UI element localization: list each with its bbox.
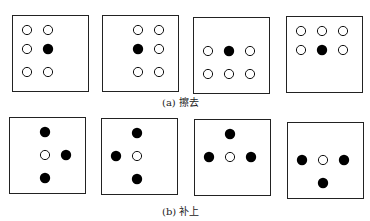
open-pixel-dot: [22, 25, 31, 34]
filled-pixel-dot: [132, 174, 142, 184]
panel-b-box-3: [195, 120, 271, 196]
open-pixel-dot: [224, 69, 233, 78]
filled-pixel-dot: [246, 152, 256, 162]
open-pixel-dot: [296, 26, 305, 35]
filled-pixel-dot: [111, 151, 121, 161]
panel-a-box-1: [13, 16, 89, 92]
panel-b-box-4: [288, 123, 364, 199]
open-pixel-dot: [22, 44, 31, 53]
open-pixel-dot: [132, 151, 141, 160]
open-pixel-dot: [154, 25, 163, 34]
filled-pixel-dot: [318, 178, 328, 188]
panel-b-box-2: [102, 119, 178, 195]
filled-pixel-dot: [133, 44, 143, 54]
panel-a-box-3: [194, 18, 270, 94]
filled-pixel-dot: [40, 127, 50, 137]
open-pixel-dot: [133, 25, 142, 34]
filled-pixel-dot: [297, 155, 307, 165]
open-pixel-dot: [245, 69, 254, 78]
filled-pixel-dot: [204, 152, 214, 162]
open-pixel-dot: [338, 45, 347, 54]
filled-pixel-dot: [224, 46, 234, 56]
panel-a-box-4: [287, 17, 363, 93]
open-pixel-dot: [40, 150, 49, 159]
filled-pixel-dot: [225, 129, 235, 139]
caption-erase: (a) 擦去: [162, 94, 199, 109]
open-pixel-dot: [203, 46, 212, 55]
open-pixel-dot: [338, 26, 347, 35]
panel-a-box-2: [103, 16, 179, 92]
open-pixel-dot: [43, 25, 52, 34]
open-pixel-dot: [245, 46, 254, 55]
open-pixel-dot: [154, 44, 163, 53]
morphology-diagram: [0, 0, 370, 221]
filled-pixel-dot: [43, 44, 53, 54]
open-pixel-dot: [296, 45, 305, 54]
open-pixel-dot: [203, 69, 212, 78]
open-pixel-dot: [225, 152, 234, 161]
open-pixel-dot: [317, 26, 326, 35]
panel-b-box-1: [10, 118, 86, 194]
filled-pixel-dot: [132, 128, 142, 138]
filled-pixel-dot: [61, 150, 71, 160]
caption-fill: (b) 补上: [162, 203, 199, 218]
open-pixel-dot: [133, 67, 142, 76]
open-pixel-dot: [22, 67, 31, 76]
filled-pixel-dot: [339, 155, 349, 165]
open-pixel-dot: [318, 155, 327, 164]
open-pixel-dot: [43, 67, 52, 76]
filled-pixel-dot: [40, 173, 50, 183]
filled-pixel-dot: [317, 45, 327, 55]
open-pixel-dot: [154, 67, 163, 76]
